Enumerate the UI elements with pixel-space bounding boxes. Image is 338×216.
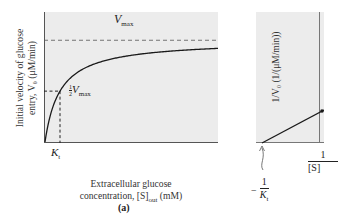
kt-sub: t [58,153,60,161]
neg-sign: − [251,185,257,196]
inv-s-num: 1 [308,149,338,162]
panel-a-label: (a) [118,202,130,213]
kt-tick-label: Kt [51,146,60,161]
neg-inverse-kt-label: −1Kt [251,176,269,205]
neg-kt-den: Kt [260,189,269,205]
neg-kt-arrow [262,148,264,170]
lineweaver-burk-point [320,109,324,113]
vmax-label: Vmax [114,12,133,28]
panel-b-x-axis-label: 1 [S] [308,149,338,174]
panel-b-plot-area [256,12,324,143]
neg-kt-den-main: K [260,189,267,200]
neg-kt-fraction: 1Kt [260,176,269,205]
neg-kt-den-sub: t [267,195,269,203]
vmax-sub: max [121,20,133,28]
half-vmax-label: 12Vmax [69,83,91,98]
half-vmax-main: V [72,83,79,95]
x-label-line1: Extracellular glucose [58,178,204,190]
y-label-line2: entry, V₀ (μM/min) [26,8,38,148]
neg-kt-num: 1 [260,176,269,189]
panel-b-y-axis-label: 1/V₀ (1/(μM/min)) [271,27,281,107]
inv-s-den: [S] [308,162,338,174]
panel-a-y-axis-label: Initial velocity of glucose entry, V₀ (μ… [14,8,38,148]
x-label-line2: concentration, [S]out (mM) [58,190,204,206]
y-label-line1: Initial velocity of glucose [14,8,26,148]
panel-a-x-axis-label: Extracellular glucose concentration, [S]… [58,178,204,206]
half-vmax-sub: max [79,90,91,98]
x-label-main: concentration, [S] [80,190,149,201]
x-label-unit: (mM) [157,190,182,201]
